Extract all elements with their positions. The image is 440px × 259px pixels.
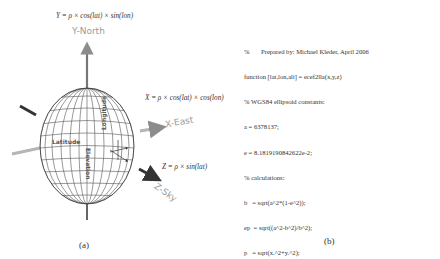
y-north-label: Y-North [72,26,105,36]
x-east-axis [140,128,158,131]
longitude-label: Longitude [100,96,107,130]
elevation-label: Elevation [85,148,92,180]
globe-diagram [0,0,220,259]
code-panel: % Prepared by: Michael Kleder, April 200… [220,0,440,259]
code-line: a = 6378137; [244,123,422,131]
globe-diagram-panel: Y = ρ × cos(lat) × sin(lon) Y-North X = … [0,0,220,259]
code-line: % calculations: [244,174,422,182]
caption-b: (b) [324,236,335,246]
code-line: p = sqrt(x.^2+y.^2); [244,249,422,257]
matlab-code-listing: % Prepared by: Michael Kleder, April 200… [244,31,422,259]
latitude-label: Latitude [52,138,80,145]
code-line: b = sqrt(a^2*(1-e^2)); [244,199,422,207]
z-sky-axis [139,169,154,177]
z-equation: Z = ρ × sin(lat) [162,163,207,171]
code-line: function [lat,lon,alt] = ecef2lla(x,y,z) [244,73,422,81]
y-equation: Y = ρ × cos(lat) × sin(lon) [56,12,133,20]
code-line: % Prepared by: Michael Kleder, April 200… [244,48,422,56]
code-line: ep = sqrt((a^2-b^2)/b^2); [244,224,422,232]
x-equation: X = ρ × cos(lat) × cos(lon) [145,94,224,102]
code-line: e = 8.1819190842622e-2; [244,149,422,157]
code-line: % WGS84 ellipsoid constants: [244,98,422,106]
caption-a: (a) [79,240,89,250]
